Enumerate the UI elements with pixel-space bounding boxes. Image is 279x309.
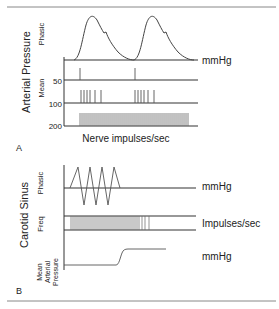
unit-mmhg-phasic-b: mmHg: [202, 181, 231, 192]
map-step-curve: [64, 249, 166, 265]
panel-a: 50 100 200 Arterial Pressure Phasic Mean…: [16, 16, 231, 153]
freq-label-b: Freq: [36, 216, 45, 231]
carotid-sinus-title: Carotid Sinus: [18, 181, 30, 248]
unit-impulses-b: Impulses/sec: [202, 218, 260, 229]
x-axis-label: Nerve impulses/sec: [82, 133, 169, 144]
panel-b: Carotid Sinus Phasic Freq Mean Arterial …: [16, 165, 260, 296]
map-label-line3: Pressure: [52, 258, 59, 286]
map-label-line1: Mean: [36, 263, 43, 281]
tick-50: 50: [53, 77, 62, 86]
panel-a-label: A: [16, 143, 22, 153]
phasic-label-b: Phasic: [36, 171, 45, 194]
spikes-100: [81, 90, 154, 103]
figure-canvas: 50 100 200 Arterial Pressure Phasic Mean…: [0, 0, 279, 309]
mean-label-a: Mean: [37, 79, 46, 98]
arterial-pressure-title: Arterial Pressure: [20, 31, 32, 113]
unit-mmhg-map-b: mmHg: [202, 251, 231, 262]
phasic-label-a: Phasic: [37, 22, 46, 45]
map-label-line2: Arterial: [44, 260, 51, 283]
spikes-200: [80, 113, 188, 126]
freq-spikes: [71, 216, 149, 230]
tick-200: 200: [49, 122, 63, 131]
tick-100: 100: [49, 100, 63, 109]
spikes-50: [80, 68, 135, 80]
phasic-zigzag: [70, 167, 120, 205]
panel-b-label: B: [16, 286, 22, 296]
phasic-pressure-wave: [74, 16, 194, 60]
unit-mmhg-a: mmHg: [202, 55, 231, 66]
